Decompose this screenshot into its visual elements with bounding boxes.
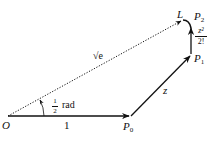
edge-label-z2-over-2fact: z² 2! bbox=[195, 27, 207, 46]
spiral-tail bbox=[183, 20, 191, 28]
point-label-l: L bbox=[177, 9, 183, 20]
angle-arc bbox=[40, 100, 44, 116]
edge-p0-p1 bbox=[131, 56, 190, 116]
edge-label-z: z bbox=[163, 85, 167, 96]
edge-label-1: 1 bbox=[64, 120, 70, 131]
angle-unit: rad bbox=[62, 100, 75, 110]
point-label-o: O bbox=[2, 120, 10, 131]
edge-label-sqrt-e: √e bbox=[93, 51, 103, 61]
diagram-canvas bbox=[0, 0, 208, 144]
edge-o-l-dotted bbox=[8, 21, 181, 116]
angle-fraction: 1 2 bbox=[52, 98, 58, 115]
point-label-p0: P0 bbox=[123, 121, 133, 134]
point-label-p2: P2 bbox=[194, 11, 204, 24]
point-label-p1: P1 bbox=[194, 53, 204, 66]
